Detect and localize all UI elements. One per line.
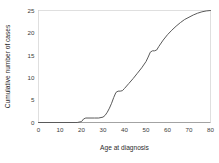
plot-area-frame [39, 11, 211, 123]
x-tick-label: 0 [37, 126, 41, 133]
y-tick-label: 5 [31, 96, 35, 103]
y-axis-title: Cumulative number of cases [4, 24, 11, 108]
chart-container: 0510152025 01020304050607080 Age at diag… [0, 0, 219, 163]
x-tick-label: 10 [57, 126, 64, 133]
x-tick-label: 70 [186, 126, 193, 133]
y-tick-label: 10 [28, 74, 35, 81]
x-tick-label: 60 [164, 126, 171, 133]
y-tick-label: 20 [28, 29, 35, 36]
x-tick-label: 40 [121, 126, 128, 133]
x-axis-tick-labels: 01020304050607080 [37, 126, 215, 133]
x-tick-label: 80 [207, 126, 214, 133]
x-tick-label: 30 [100, 126, 107, 133]
y-tick-label: 0 [31, 119, 35, 126]
y-tick-label: 15 [28, 52, 35, 59]
x-tick-label: 20 [78, 126, 85, 133]
cumulative-cases-line-chart: 0510152025 01020304050607080 Age at diag… [0, 0, 219, 163]
y-tick-label: 25 [28, 7, 35, 14]
x-axis-title: Age at diagnosis [100, 144, 149, 152]
x-tick-label: 50 [143, 126, 150, 133]
